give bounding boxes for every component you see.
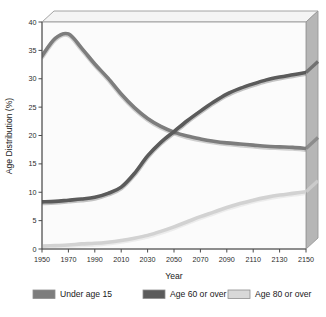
- x-tick-label: 2150: [298, 255, 314, 264]
- x-tick-label: 1970: [60, 255, 76, 264]
- x-tick-label: 2090: [219, 255, 235, 264]
- x-tick-label: 2130: [272, 255, 288, 264]
- legend-swatch: [33, 290, 55, 299]
- y-tick-label: 25: [29, 103, 37, 112]
- x-axis-ticks: 1950197019902010203020502070209021102130…: [34, 249, 314, 264]
- x-axis-title: Year: [165, 271, 183, 281]
- legend-label: Age 60 or over: [170, 289, 227, 299]
- legend-item-1[interactable]: Under age 15: [33, 289, 112, 299]
- y-tick-label: 15: [29, 159, 37, 168]
- x-tick-label: 2050: [166, 255, 182, 264]
- x-tick-label: 2010: [113, 255, 129, 264]
- y-tick-label: 20: [29, 131, 37, 140]
- x-tick-label: 2110: [245, 255, 260, 264]
- frame-top-face: [42, 11, 318, 22]
- legend-label: Age 80 or over: [255, 289, 312, 299]
- x-tick-label: 1990: [87, 255, 103, 264]
- legend-item-3[interactable]: Age 80 or over: [228, 289, 312, 299]
- y-axis-title: Age Distribution (%): [4, 98, 14, 175]
- legend-item-2[interactable]: Age 60 or over: [143, 289, 227, 299]
- y-axis-ticks: 0510152025303540: [29, 18, 43, 254]
- chart-container: 0510152025303540 19501970199020102030205…: [0, 0, 326, 317]
- legend-swatch: [228, 290, 250, 299]
- y-tick-label: 40: [29, 18, 37, 27]
- x-tick-label: 2070: [192, 255, 208, 264]
- y-tick-label: 0: [33, 245, 37, 254]
- y-tick-label: 10: [29, 188, 37, 197]
- age-distribution-line-chart: 0510152025303540 19501970199020102030205…: [0, 0, 326, 317]
- frame-right-face: [306, 11, 318, 249]
- y-tick-label: 30: [29, 74, 37, 83]
- legend-swatch: [143, 290, 165, 299]
- x-tick-label: 1950: [34, 255, 50, 264]
- y-tick-label: 5: [33, 216, 37, 225]
- x-tick-label: 2030: [140, 255, 156, 264]
- y-tick-label: 35: [29, 46, 37, 55]
- chart-legend: Under age 15Age 60 or overAge 80 or over: [33, 289, 312, 299]
- legend-label: Under age 15: [60, 289, 112, 299]
